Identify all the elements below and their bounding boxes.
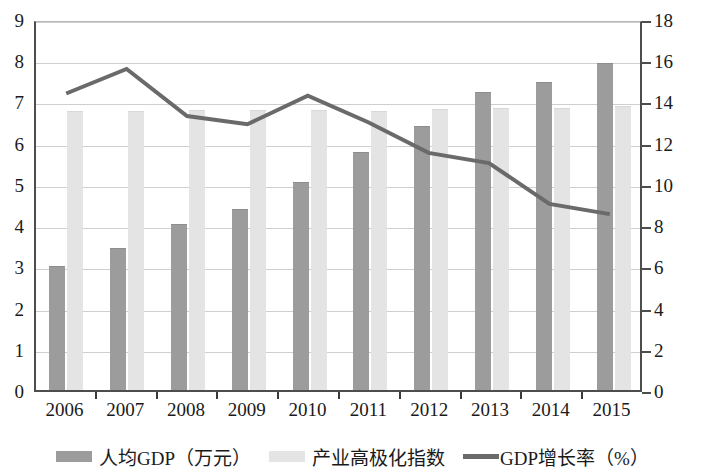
bar [371, 111, 387, 390]
x-axis-tick [277, 392, 279, 399]
right-axis-tick [642, 392, 651, 394]
bar [353, 152, 369, 390]
bar [189, 110, 205, 390]
bar [293, 182, 309, 390]
x-axis-tick-label: 2007 [90, 400, 160, 419]
right-axis-tick-label: 8 [654, 217, 694, 236]
x-axis-tick-label: 2008 [151, 400, 221, 419]
gdp-growth-line-path [66, 69, 610, 214]
legend-item[interactable]: 人均GDP（万元） [56, 443, 251, 470]
bar [171, 224, 187, 390]
bar [493, 108, 509, 390]
x-axis-tick [460, 392, 462, 399]
bar [615, 106, 631, 390]
x-axis-tick [581, 392, 583, 399]
right-axis-tick-label: 4 [654, 300, 694, 319]
gridline [36, 63, 640, 64]
plot-area [34, 21, 642, 392]
left-axis-tick-label: 6 [0, 135, 24, 154]
right-axis-tick [642, 310, 651, 312]
chart-legend: 人均GDP（万元）产业高极化指数GDP增长率（%） [0, 441, 705, 472]
x-axis-tick-label: 2009 [212, 400, 282, 419]
right-axis-tick [642, 145, 651, 147]
bar [110, 248, 126, 390]
left-axis-tick-label: 3 [0, 258, 24, 277]
x-axis-tick [156, 392, 158, 399]
bar [232, 209, 248, 390]
x-axis-tick [399, 392, 401, 399]
x-axis-tick-label: 2014 [516, 400, 586, 419]
legend-item[interactable]: 产业高极化指数 [269, 443, 445, 470]
gridline [36, 22, 640, 23]
bar [432, 109, 448, 390]
left-axis-tick-label: 9 [0, 11, 24, 30]
x-axis-tick [216, 392, 218, 399]
x-axis-tick-label: 2013 [455, 400, 525, 419]
right-axis-tick-label: 0 [654, 382, 694, 401]
left-axis-tick-label: 5 [0, 176, 24, 195]
left-axis-tick-label: 0 [0, 382, 24, 401]
legend-line-icon [463, 454, 499, 459]
right-axis-tick-label: 12 [654, 135, 694, 154]
x-axis-tick [338, 392, 340, 399]
right-axis-tick [642, 186, 651, 188]
right-axis-tick-label: 10 [654, 176, 694, 195]
legend-label: 产业高极化指数 [312, 443, 445, 470]
x-axis-tick-label: 2010 [273, 400, 343, 419]
right-axis-tick-label: 14 [654, 93, 694, 112]
right-axis-tick [642, 103, 651, 105]
x-axis-tick-label: 2012 [394, 400, 464, 419]
x-axis-tick [95, 392, 97, 399]
right-axis-tick-label: 16 [654, 52, 694, 71]
legend-swatch-icon [56, 451, 92, 462]
left-axis-tick-label: 8 [0, 52, 24, 71]
right-axis-tick-label: 2 [654, 341, 694, 360]
bar [67, 111, 83, 390]
bar [414, 126, 430, 390]
x-axis-tick-label: 2006 [29, 400, 99, 419]
bar [49, 266, 65, 390]
x-axis-tick-label: 2015 [577, 400, 647, 419]
left-axis-tick-label: 2 [0, 300, 24, 319]
bar [250, 110, 266, 390]
legend-label: 人均GDP（万元） [99, 443, 251, 470]
bar [475, 92, 491, 390]
bar [554, 108, 570, 390]
bar [536, 82, 552, 390]
right-axis-tick [642, 62, 651, 64]
bar [597, 63, 613, 390]
right-axis-tick-label: 18 [654, 11, 694, 30]
legend-swatch-icon [269, 451, 305, 462]
right-axis-tick [642, 227, 651, 229]
x-axis-tick-label: 2011 [333, 400, 403, 419]
right-axis-tick [642, 351, 651, 353]
x-axis-tick [520, 392, 522, 399]
legend-item[interactable]: GDP增长率（%） [463, 443, 649, 470]
left-axis-tick-label: 4 [0, 217, 24, 236]
bar [128, 111, 144, 390]
left-axis-tick-label: 1 [0, 341, 24, 360]
right-axis-tick-label: 6 [654, 258, 694, 277]
left-axis-tick-label: 7 [0, 93, 24, 112]
chart-container: 0123456789 024681012141618 2006200720082… [0, 0, 705, 472]
bar [311, 110, 327, 390]
legend-label: GDP增长率（%） [500, 443, 649, 470]
right-axis-tick [642, 268, 651, 270]
right-axis-tick [642, 21, 651, 23]
